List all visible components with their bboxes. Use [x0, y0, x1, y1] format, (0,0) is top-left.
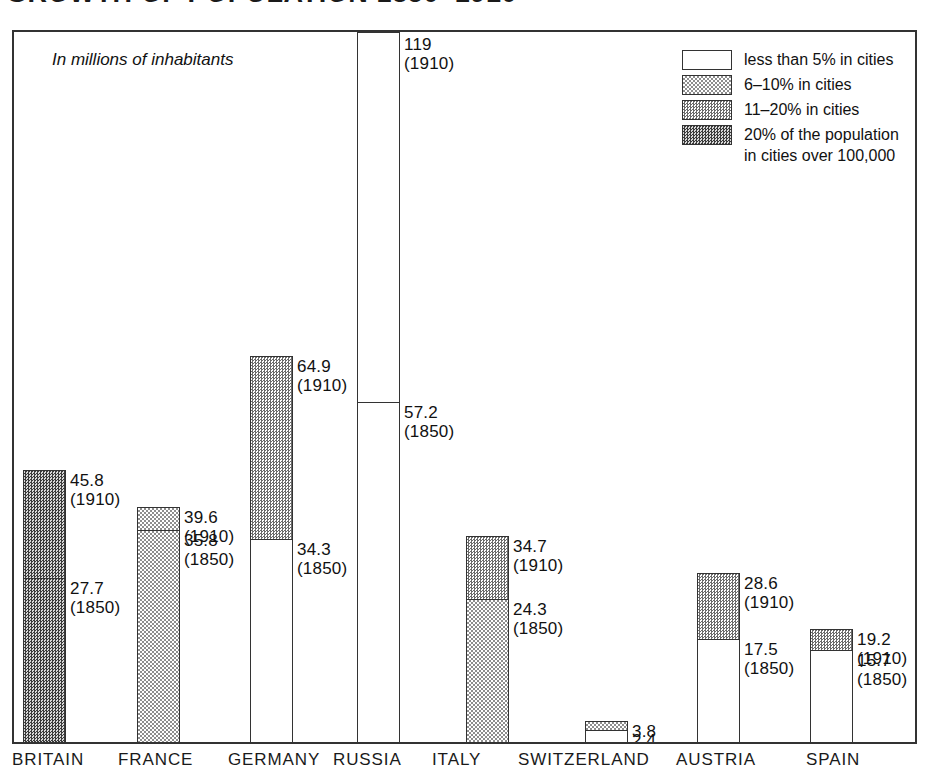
bar-segment-austria-1850 — [697, 639, 740, 744]
legend-label: 6–10% in cities — [744, 74, 852, 95]
x-axis-label-france: FRANCE — [118, 750, 193, 770]
chart-frame: In millions of inhabitants 45.8 (1910)27… — [12, 30, 917, 744]
bar-segment-italy-1850 — [466, 599, 509, 744]
bar-segment-russia-1910 — [357, 32, 400, 402]
chart-legend: less than 5% in cities6–10% in cities11–… — [682, 48, 910, 169]
bar-segment-britain-1910 — [23, 470, 66, 578]
bar-segment-france-1850 — [137, 530, 180, 744]
bar-segment-italy-1910 — [466, 536, 509, 598]
value-label-germany-1910: 64.9 (1910) — [297, 357, 347, 395]
x-axis-label-italy: ITALY — [432, 750, 481, 770]
legend-item-0[interactable]: less than 5% in cities — [682, 48, 910, 73]
x-axis-label-spain: SPAIN — [806, 750, 860, 770]
x-axis-label-germany: GERMANY — [228, 750, 320, 770]
chart-subtitle: In millions of inhabitants — [52, 50, 233, 70]
plot-area: In millions of inhabitants 45.8 (1910)27… — [14, 32, 915, 742]
legend-label: 11–20% in cities — [744, 99, 859, 120]
bar-segment-russia-1850 — [357, 402, 400, 744]
value-label-austria-1910: 28.6 (1910) — [744, 574, 794, 612]
legend-swatch-dark — [682, 125, 732, 145]
legend-label: 20% of the population — [744, 124, 899, 145]
x-axis-labels: BRITAINFRANCEGERMANYRUSSIAITALYSWITZERLA… — [0, 750, 931, 783]
x-axis-label-switzerland: SWITZERLAND — [518, 750, 650, 770]
value-label-switzerland-1850: 2.4 (1850) — [632, 731, 682, 744]
x-axis-label-britain: BRITAIN — [12, 750, 84, 770]
bar-segment-france-1910 — [137, 507, 180, 530]
value-label-britain-1910: 45.8 (1910) — [70, 471, 120, 509]
value-label-russia-1910: 119 (1910) — [404, 35, 454, 73]
chart-title-strip: GROWTH OF POPULATION 1850–1910 — [0, 0, 931, 13]
bar-segment-switzerland-1850 — [585, 730, 628, 744]
page-title: GROWTH OF POPULATION 1850–1910 — [6, 0, 517, 9]
value-label-austria-1850: 17.5 (1850) — [744, 640, 794, 678]
value-label-italy-1850: 24.3 (1850) — [513, 600, 563, 638]
legend-swatch-light — [682, 75, 732, 95]
value-label-russia-1850: 57.2 (1850) — [404, 403, 454, 441]
legend-item-3[interactable]: 20% of the populationin cities over 100,… — [682, 123, 910, 169]
bar-segment-britain-1850 — [23, 578, 66, 744]
legend-label-line2: in cities over 100,000 — [744, 145, 895, 166]
x-axis-label-russia: RUSSIA — [333, 750, 402, 770]
legend-swatch-none — [682, 50, 732, 70]
bar-segment-germany-1910 — [250, 356, 293, 539]
legend-item-1[interactable]: 6–10% in cities — [682, 73, 910, 98]
value-label-germany-1850: 34.3 (1850) — [297, 540, 347, 578]
x-axis-label-austria: AUSTRIA — [676, 750, 756, 770]
value-label-france-1850: 35.8 (1850) — [184, 531, 234, 569]
bar-segment-spain-1910 — [810, 629, 853, 650]
bar-segment-austria-1910 — [697, 573, 740, 639]
value-label-italy-1910: 34.7 (1910) — [513, 537, 563, 575]
legend-label: less than 5% in cities — [744, 49, 893, 70]
bar-segment-switzerland-1910 — [585, 721, 628, 729]
bar-segment-germany-1850 — [250, 539, 293, 744]
value-label-spain-1850: 15.7 (1850) — [857, 651, 907, 689]
value-label-britain-1850: 27.7 (1850) — [70, 579, 120, 617]
legend-item-2[interactable]: 11–20% in cities — [682, 98, 910, 123]
bar-segment-spain-1850 — [810, 650, 853, 744]
legend-swatch-mid — [682, 100, 732, 120]
